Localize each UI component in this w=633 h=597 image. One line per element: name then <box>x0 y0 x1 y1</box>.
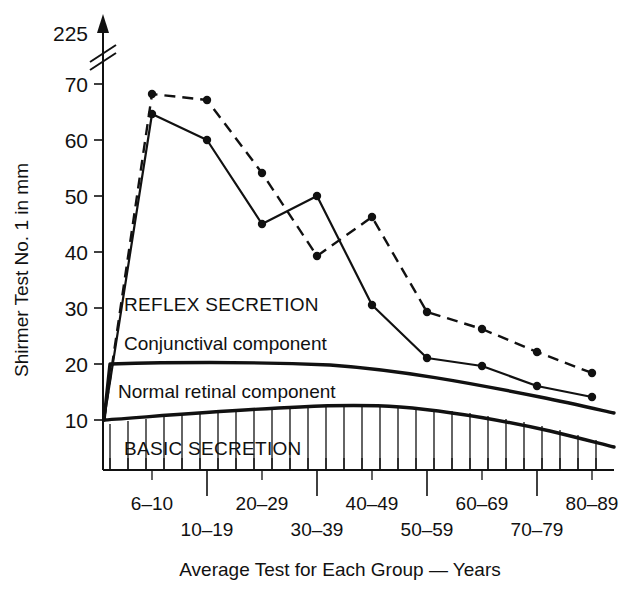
x-tick-label-70-79: 70–79 <box>511 519 564 540</box>
y-tick-label-40: 40 <box>65 241 88 264</box>
solid-point-3 <box>258 220 266 228</box>
reflex-secretion-label: REFLEX SECRETION <box>124 294 319 315</box>
basic-secretion-label: BASIC SECRETION <box>124 438 302 459</box>
dashed-point-2 <box>203 96 211 104</box>
y-tick-label-10: 10 <box>65 409 88 432</box>
y-axis-top-label: 225 <box>53 22 88 45</box>
y-tick-label-60: 60 <box>65 129 88 152</box>
dashed-point-5 <box>368 213 376 221</box>
solid-point-5 <box>368 301 376 309</box>
x-tick-label-80-89: 80–89 <box>566 493 619 514</box>
solid-point-4 <box>313 192 321 200</box>
solid-point-8 <box>533 382 541 390</box>
solid-point-2 <box>203 136 211 144</box>
x-tick-label-50-59: 50–59 <box>401 519 454 540</box>
solid-point-1 <box>148 110 156 118</box>
x-tick-label-6-10: 6–10 <box>131 493 173 514</box>
x-tick-label-10-19: 10–19 <box>181 519 234 540</box>
dashed-point-8 <box>533 348 541 356</box>
x-tick-label-40-49: 40–49 <box>346 493 399 514</box>
dashed-point-3 <box>258 169 266 177</box>
dashed-point-9 <box>588 369 596 377</box>
chart-svg: 225 70 60 50 40 30 20 10 Shirmer Test No… <box>0 0 633 597</box>
x-tick-label-30-39: 30–39 <box>291 519 344 540</box>
y-axis-title: Shirmer Test No. 1 in mm <box>11 163 32 377</box>
y-tick-label-30: 30 <box>65 297 88 320</box>
dashed-point-1 <box>148 90 156 98</box>
conjunctival-component-label: Conjunctival component <box>124 333 328 354</box>
dashed-point-7 <box>478 325 486 333</box>
chart-figure: 225 70 60 50 40 30 20 10 Shirmer Test No… <box>0 0 633 597</box>
x-axis-title: Average Test for Each Group — Years <box>179 559 500 580</box>
solid-point-6 <box>423 354 431 362</box>
y-tick-label-70: 70 <box>65 73 88 96</box>
x-tick-label-60-69: 60–69 <box>456 493 509 514</box>
normal-retinal-component-label: Normal retinal component <box>118 381 336 402</box>
y-tick-label-50: 50 <box>65 185 88 208</box>
y-tick-label-20: 20 <box>65 353 88 376</box>
x-tick-label-20-29: 20–29 <box>236 493 289 514</box>
dashed-point-6 <box>423 308 431 316</box>
solid-point-9 <box>588 393 596 401</box>
dashed-point-4 <box>313 252 321 260</box>
solid-point-7 <box>478 362 486 370</box>
